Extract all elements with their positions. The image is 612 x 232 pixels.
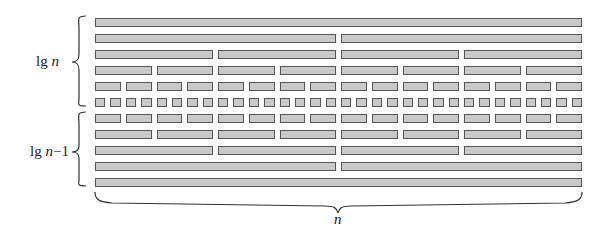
segment-bar <box>126 98 136 107</box>
width-brace-label: n <box>334 211 342 228</box>
segment-bar <box>218 130 275 139</box>
segment-bar <box>280 130 337 139</box>
segment-bar <box>95 146 213 155</box>
segment-bar <box>218 82 244 91</box>
segment-bar <box>372 98 382 107</box>
segment-bar <box>341 34 582 43</box>
segment-bar <box>464 130 521 139</box>
segment-bar <box>526 114 552 123</box>
segment-bar <box>233 98 243 107</box>
segment-bar <box>95 162 336 171</box>
segment-bar <box>403 114 429 123</box>
segment-bar <box>556 82 582 91</box>
lg-text: lg <box>30 143 45 159</box>
segment-bar <box>495 82 521 91</box>
segment-bar <box>110 98 120 107</box>
segment-bar <box>95 50 213 59</box>
segment-bar <box>526 130 583 139</box>
segment-bar <box>95 130 152 139</box>
n-var: n <box>334 211 342 227</box>
segment-bar <box>280 66 337 75</box>
segment-bar <box>479 98 489 107</box>
bottom-width-brace <box>95 192 582 213</box>
segment-bar <box>218 146 336 155</box>
bottom-brace-label: lg n−1 <box>30 143 69 160</box>
segment-bar <box>95 98 105 107</box>
segment-bar <box>449 98 459 107</box>
segment-bar <box>203 98 213 107</box>
segment-bar <box>403 98 413 107</box>
bottom-left-brace <box>72 112 86 186</box>
segment-bar <box>157 130 214 139</box>
segment-bar <box>157 98 167 107</box>
segment-bar <box>126 114 152 123</box>
segment-bar <box>556 114 582 123</box>
n-var: n <box>51 53 59 69</box>
top-left-brace <box>72 16 86 106</box>
segment-bar <box>280 114 306 123</box>
segment-bar <box>433 114 459 123</box>
segment-bar <box>341 162 582 171</box>
segment-bar <box>372 114 398 123</box>
segment-bar <box>141 98 151 107</box>
segment-bar <box>341 146 459 155</box>
segment-bar <box>526 82 552 91</box>
segment-bar <box>326 98 336 107</box>
segment-bar <box>95 34 336 43</box>
top-brace-label: lg n <box>36 53 59 70</box>
segment-bar <box>341 114 367 123</box>
segment-bar <box>249 98 259 107</box>
segment-bar <box>157 66 214 75</box>
segment-bar <box>264 98 274 107</box>
segment-bar <box>510 98 520 107</box>
segment-bar <box>433 82 459 91</box>
segment-bar <box>433 98 443 107</box>
segment-bar <box>218 98 228 107</box>
lg-text: lg <box>36 53 51 69</box>
segment-bar <box>280 98 290 107</box>
minus-one-text: −1 <box>53 143 69 159</box>
segment-bar <box>341 82 367 91</box>
segment-bar <box>372 82 398 91</box>
segment-bar <box>310 114 336 123</box>
recursion-diagram: lg n lg n−1 n <box>0 0 612 232</box>
segment-bar <box>95 82 121 91</box>
segment-bar <box>526 98 536 107</box>
segment-bar <box>464 98 474 107</box>
segment-bar <box>495 98 505 107</box>
segment-bar <box>187 98 197 107</box>
segment-bar <box>464 50 582 59</box>
segment-bar <box>418 98 428 107</box>
segment-bar <box>218 50 336 59</box>
segment-bar <box>295 98 305 107</box>
segment-bar <box>187 114 213 123</box>
segment-bar <box>572 98 582 107</box>
segment-bar <box>495 114 521 123</box>
segment-bar <box>126 82 152 91</box>
segment-bar <box>556 98 566 107</box>
segment-bar <box>218 114 244 123</box>
segment-bar <box>95 178 582 187</box>
segment-bar <box>249 114 275 123</box>
segment-bar <box>526 66 583 75</box>
segment-bar <box>387 98 397 107</box>
segment-bar <box>157 82 183 91</box>
segment-bar <box>341 130 398 139</box>
segment-bar <box>403 130 460 139</box>
segment-bar <box>280 82 306 91</box>
segment-bar <box>341 98 351 107</box>
segment-bar <box>218 66 275 75</box>
segment-bar <box>187 82 213 91</box>
segment-bar <box>464 66 521 75</box>
segment-bar <box>464 146 582 155</box>
segment-bar <box>172 98 182 107</box>
segment-bar <box>341 50 459 59</box>
segment-bar <box>403 66 460 75</box>
segment-bar <box>356 98 366 107</box>
segment-bar <box>95 114 121 123</box>
n-var: n <box>45 143 53 159</box>
segment-bar <box>464 82 490 91</box>
segment-bar <box>341 66 398 75</box>
segment-bar <box>310 98 320 107</box>
segment-bar <box>157 114 183 123</box>
